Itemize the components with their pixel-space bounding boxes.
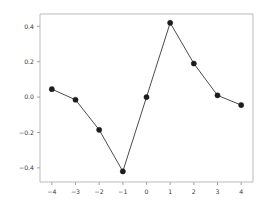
data-point [120, 169, 125, 174]
data-point [49, 87, 54, 92]
y-tick-label: 0.0 [24, 93, 34, 100]
y-tick-label: −0.2 [19, 129, 34, 136]
data-point [73, 97, 78, 102]
x-tick-label: −2 [95, 188, 104, 195]
data-point [215, 93, 220, 98]
data-point [97, 127, 102, 132]
x-tick-label: −3 [71, 188, 80, 195]
x-tick-label: −1 [118, 188, 127, 195]
data-point [239, 102, 244, 107]
line-chart: −0.4−0.20.00.20.4 −4−3−2−101234 [0, 0, 268, 206]
x-tick-label: 2 [192, 188, 196, 195]
x-tick-label: 0 [145, 188, 149, 195]
y-tick-label: 0.2 [24, 58, 34, 65]
y-tick-label: 0.4 [24, 23, 34, 30]
x-tick-label: 3 [216, 188, 220, 195]
data-point [144, 95, 149, 100]
chart-figure: −0.4−0.20.00.20.4 −4−3−2−101234 [0, 0, 268, 206]
y-tick-label: −0.4 [19, 164, 34, 171]
x-tick-label: −4 [47, 188, 56, 195]
x-tick-label: 4 [239, 188, 243, 195]
x-tick-label: 1 [168, 188, 172, 195]
data-point [168, 20, 173, 25]
data-point [191, 61, 196, 66]
